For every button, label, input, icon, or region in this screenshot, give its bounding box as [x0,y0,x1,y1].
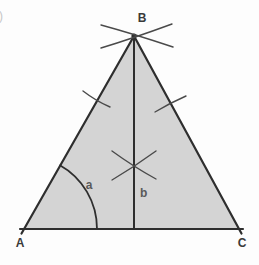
triangle-fill [24,36,239,229]
vertex-label-c: C [238,236,247,250]
segment-label-b: b [140,186,147,200]
angle-label-a: a [86,178,93,192]
triangle-construction-diagram: ) B A C a b [0,0,259,265]
diagram-canvas: ) B A C a b [0,0,259,265]
page-edge-mark: ) [0,9,3,23]
vertex-label-a: A [16,236,25,250]
vertex-label-b: B [138,11,147,25]
